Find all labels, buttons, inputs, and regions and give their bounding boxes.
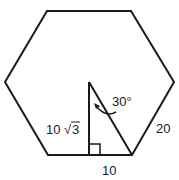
sqrt-symbol-icon: √ [64, 122, 72, 137]
height-label-number: 10 [46, 122, 60, 137]
base-label: 10 [102, 163, 116, 178]
side-label: 20 [156, 121, 170, 136]
angle-label: 30° [112, 94, 132, 109]
height-label-root: 3 [72, 122, 79, 137]
hexagon-diagram: 30° 20 10 10 √ 3 [0, 0, 179, 180]
arrowhead-icon [94, 103, 100, 109]
right-angle-marker [89, 144, 100, 155]
